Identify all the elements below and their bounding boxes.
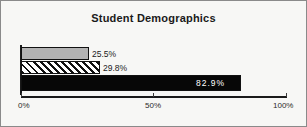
bar-row: 29.8% [21,61,286,74]
chart-title: Student Demographics [1,12,306,24]
x-tick-mark-50 [153,93,154,97]
x-tick-label-100: 100% [273,101,293,110]
bar-row: 82.9% [21,75,286,91]
bar-label-series-2: 29.8% [103,63,127,73]
chart-container: Student Demographics 25.5% 29.8% 82.9% 0… [0,0,307,127]
x-axis-line [21,96,287,98]
plot-area: 25.5% 29.8% 82.9% [21,45,286,95]
bar-series-1 [21,47,89,60]
x-tick-mark-0 [21,93,22,97]
bar-series-2 [21,61,100,74]
x-tick-mark-100 [286,93,287,97]
x-tick-label-0: 0% [18,101,30,110]
bar-row: 25.5% [21,47,286,60]
x-tick-label-50: 50% [145,101,161,110]
bar-label-series-1: 25.5% [92,49,116,59]
bar-label-series-3: 82.9% [196,78,225,88]
